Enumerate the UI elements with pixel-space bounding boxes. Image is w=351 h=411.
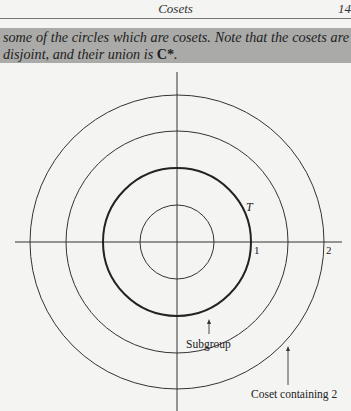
subgroup-arrowhead [207, 319, 211, 324]
tick-label-1: 1 [254, 244, 260, 256]
coset-diagram: T 1 2 Subgroup Coset containing 2 [0, 0, 351, 411]
tick-label-2: 2 [326, 244, 332, 256]
subgroup-label: Subgroup [186, 338, 231, 351]
label-T: T [246, 200, 254, 214]
coset-label: Coset containing 2 [251, 388, 337, 401]
coset-arrowhead [286, 346, 290, 351]
